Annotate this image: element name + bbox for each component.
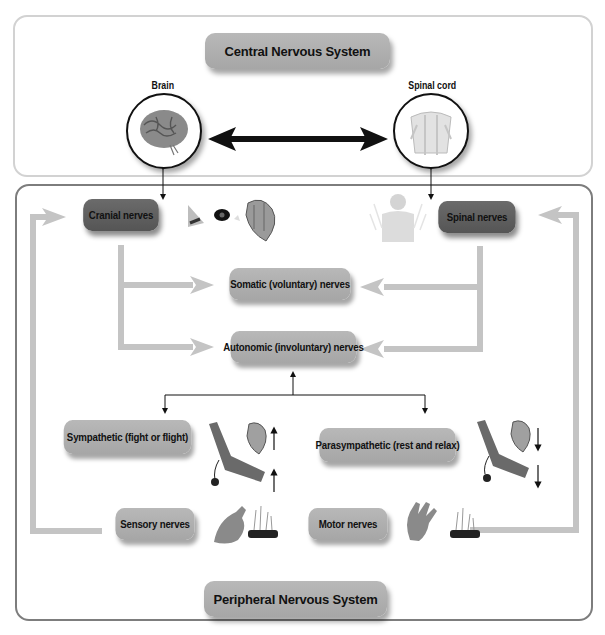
autonomic-branch-tree xyxy=(165,374,425,411)
spinal-cord-icon xyxy=(395,95,467,167)
sympathetic-arm-heart-icon xyxy=(205,420,270,495)
pns-title: Peripheral Nervous System xyxy=(204,581,387,617)
spinal-cord-label: Spinal cord xyxy=(408,80,456,91)
cns-title: Central Nervous System xyxy=(205,33,390,69)
sensory-return-arrow xyxy=(30,208,102,534)
spinal-nerves-box: Spinal nerves xyxy=(438,201,515,233)
sensory-nerves-box: Sensory nerves xyxy=(115,508,194,540)
somatic-nerves-box: Somatic (voluntary) nerves xyxy=(229,268,350,300)
sensory-hand-skin-icon xyxy=(212,502,280,547)
parasympathetic-box: Parasympathetic (rest and relax) xyxy=(319,428,455,462)
cranial-organs-icons xyxy=(186,195,292,245)
heart-icon xyxy=(246,200,275,241)
motor-nerves-box: Motor nerves xyxy=(308,508,387,540)
cranial-nerves-box: Cranial nerves xyxy=(83,199,159,231)
brain-label: Brain xyxy=(152,80,174,91)
skin-hair-icon xyxy=(248,506,278,538)
brain-circle xyxy=(126,93,202,169)
spinal-cord-circle xyxy=(393,93,469,169)
heart-icon xyxy=(247,423,266,454)
heart-icon xyxy=(511,421,530,452)
brain-icon xyxy=(128,95,200,167)
nose-icon xyxy=(188,205,204,227)
spinal-flow-arrows xyxy=(360,246,483,358)
motor-hand-skin-icon xyxy=(404,500,482,545)
sympathetic-box: Sympathetic (fight or flight) xyxy=(64,420,192,454)
cranial-flow-arrows xyxy=(118,245,214,356)
hand-icon xyxy=(214,506,246,544)
connector-arrows xyxy=(0,0,605,635)
parasympathetic-arm-heart-icon xyxy=(473,418,535,493)
autonomic-nerves-box: Autonomic (involuntary) nerves xyxy=(231,331,357,363)
skin-hair-icon xyxy=(450,508,480,538)
brain-spinal-double-arrow xyxy=(208,127,388,151)
hand-icon xyxy=(407,502,437,541)
torso-icon xyxy=(368,190,428,245)
eye-icon xyxy=(214,209,230,221)
